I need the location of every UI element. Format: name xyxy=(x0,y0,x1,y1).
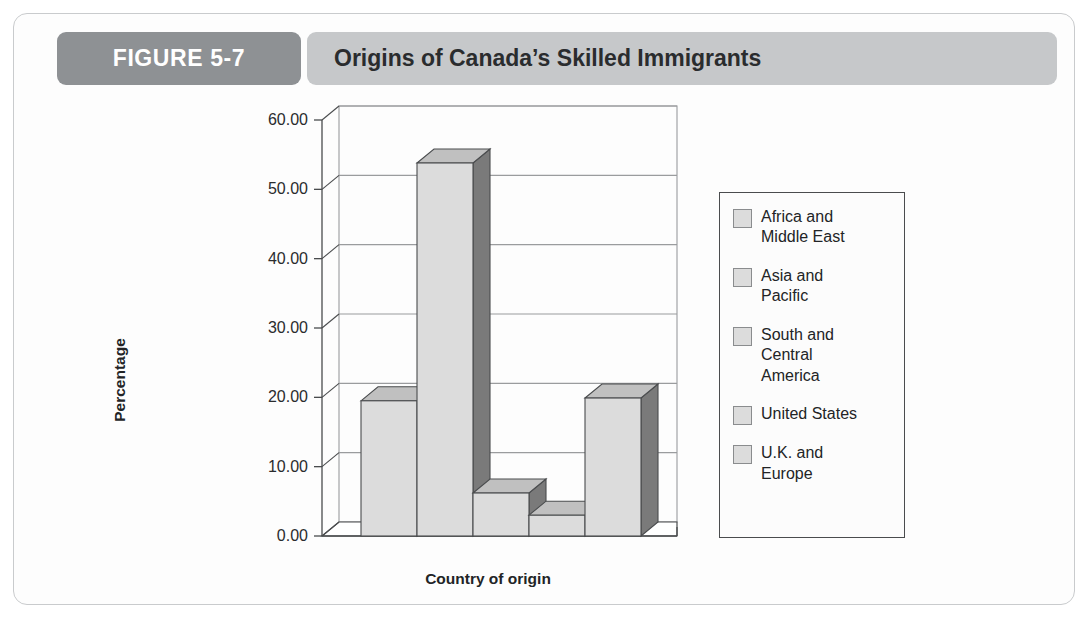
figure-frame: FIGURE 5-7 Origins of Canada’s Skilled I… xyxy=(13,13,1075,605)
legend-item[interactable]: Africa and Middle East xyxy=(720,207,904,248)
legend-item[interactable]: Asia and Pacific xyxy=(720,266,904,307)
figure-number-label: FIGURE 5-7 xyxy=(57,32,301,85)
square-swatch-icon xyxy=(733,406,752,425)
chart-legend: Africa and Middle EastAsia and PacificSo… xyxy=(719,192,905,538)
square-swatch-icon xyxy=(733,209,752,228)
figure-title: Origins of Canada’s Skilled Immigrants xyxy=(334,32,761,85)
plot-area xyxy=(296,85,696,585)
legend-item-label: South and Central America xyxy=(761,325,834,386)
bar-side-face xyxy=(641,384,658,536)
axis-depth-connector xyxy=(322,245,339,259)
legend-item[interactable]: United States xyxy=(720,404,904,425)
bar-front-face xyxy=(473,493,529,536)
square-swatch-icon xyxy=(733,327,752,346)
bar-front-face xyxy=(417,163,473,536)
square-swatch-icon xyxy=(733,268,752,287)
y-axis-title: Percentage xyxy=(111,270,129,490)
legend-item[interactable]: South and Central America xyxy=(720,325,904,386)
chart-canvas: Percentage 60.0050.0040.0030.0020.0010.0… xyxy=(14,85,1076,605)
legend-item[interactable]: U.K. and Europe xyxy=(720,443,904,484)
bar-front-face xyxy=(585,398,641,536)
figure-header: FIGURE 5-7 Origins of Canada’s Skilled I… xyxy=(14,32,1074,85)
x-axis-title: Country of origin xyxy=(308,570,668,588)
bar-side-face xyxy=(473,149,490,536)
figure-number-tab: FIGURE 5-7 xyxy=(57,32,301,85)
axis-depth-connector xyxy=(322,175,339,189)
axis-depth-connector xyxy=(322,383,339,397)
legend-item-label: Asia and Pacific xyxy=(761,266,823,307)
axis-depth-connector xyxy=(322,453,339,467)
bar-front-face xyxy=(361,401,417,536)
legend-item-label: United States xyxy=(761,404,857,424)
legend-item-label: U.K. and Europe xyxy=(761,443,823,484)
square-swatch-icon xyxy=(733,445,752,464)
axis-depth-connector xyxy=(322,106,339,120)
bar-4 xyxy=(585,384,658,536)
axis-depth-connector xyxy=(322,314,339,328)
bar-1 xyxy=(417,149,490,536)
figure-title-band: Origins of Canada’s Skilled Immigrants xyxy=(307,32,1057,85)
bar-front-face xyxy=(529,515,585,536)
legend-item-label: Africa and Middle East xyxy=(761,207,845,248)
